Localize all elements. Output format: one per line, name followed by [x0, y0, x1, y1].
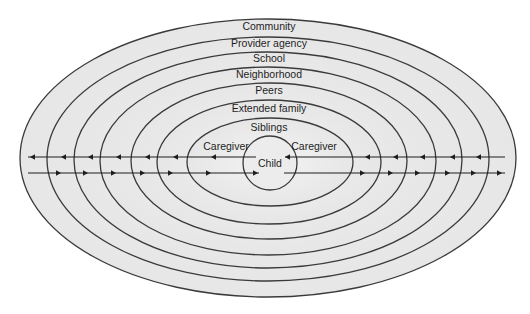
child-label: Child — [258, 157, 282, 169]
caregiver-left-label: Caregiver — [203, 140, 249, 152]
ecological-diagram: CommunityProvider agencySchoolNeighborho… — [0, 0, 530, 314]
label-siblings: Siblings — [251, 121, 288, 133]
label-provider-agency: Provider agency — [231, 37, 308, 49]
label-peers: Peers — [255, 84, 282, 96]
label-neighborhood: Neighborhood — [236, 68, 302, 80]
label-extended-family: Extended family — [232, 102, 307, 114]
caregiver-right-label: Caregiver — [291, 140, 337, 152]
label-school: School — [253, 52, 285, 64]
label-community: Community — [242, 20, 296, 32]
